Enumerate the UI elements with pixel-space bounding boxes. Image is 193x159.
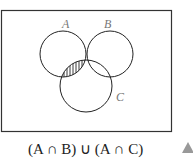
triangle-icon <box>182 142 193 153</box>
set-a-circle <box>40 31 86 77</box>
set-b-circle <box>87 31 133 77</box>
label-b: B <box>104 17 112 31</box>
universe-frame <box>2 11 172 132</box>
set-c-circle <box>60 60 112 112</box>
label-a: A <box>61 17 70 31</box>
label-c: C <box>116 90 125 104</box>
caption: (A ∩ B) ∪ (A ∩ C) <box>28 140 143 158</box>
venn-diagram: A B C <box>0 0 193 159</box>
